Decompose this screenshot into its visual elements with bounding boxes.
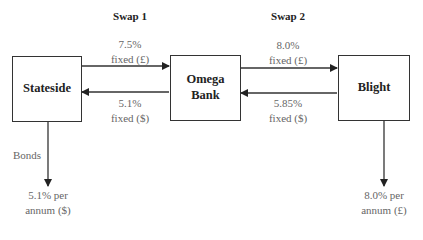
swap1-top-type: fixed (£) [100,52,160,67]
bonds-label: Bonds [13,148,41,163]
swap2-bottom-rate: 5.85% [258,96,318,111]
stateside-outflow-currency: annum ($) [18,203,78,218]
swap2-bottom-label: 5.85% fixed ($) [258,96,318,126]
swap2-top-type: fixed (£) [258,53,318,68]
omega-label-line1: Omega [186,72,224,88]
swap1-top-rate: 7.5% [100,37,160,52]
stateside-outflow-rate: 5.1% per [18,188,78,203]
swap1-bottom-rate: 5.1% [100,96,160,111]
stateside-box: Stateside [12,56,82,122]
swap1-top-label: 7.5% fixed (£) [100,37,160,67]
blight-outflow-rate: 8.0% per [354,188,414,203]
swap1-bottom-label: 5.1% fixed ($) [100,96,160,126]
blight-label: Blight [358,80,391,96]
omega-bank-box: Omega Bank [170,55,241,121]
blight-box: Blight [338,55,410,121]
swap2-top-rate: 8.0% [258,38,318,53]
swap2-top-label: 8.0% fixed (£) [258,38,318,68]
swap2-bottom-type: fixed ($) [258,111,318,126]
stateside-outflow-label: 5.1% per annum ($) [18,188,78,218]
omega-label-line2: Bank [191,88,220,104]
blight-outflow-label: 8.0% per annum (£) [354,188,414,218]
stateside-label: Stateside [23,81,71,97]
blight-outflow-currency: annum (£) [354,203,414,218]
swap1-bottom-type: fixed ($) [100,111,160,126]
